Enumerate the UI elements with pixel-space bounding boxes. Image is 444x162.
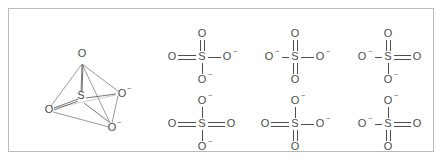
r4-bottom-charge: − bbox=[208, 137, 212, 144]
sulfur-bonds bbox=[54, 65, 116, 122]
atom-label-sulfur: S bbox=[77, 89, 84, 101]
figure-border: O O O − O − S O O S O − O − bbox=[8, 8, 434, 152]
r1-center-label: S bbox=[198, 49, 205, 61]
r5-left-label: O bbox=[261, 116, 270, 128]
r1-top-label: O bbox=[197, 26, 206, 38]
r2-right-charge: − bbox=[326, 47, 330, 54]
r2-left-label: O bbox=[265, 49, 274, 61]
atom-charge-o-bottom: − bbox=[117, 119, 121, 126]
r4-right-label: O bbox=[226, 116, 235, 128]
r5-bottom-label: O bbox=[291, 139, 300, 151]
r3-bottom-label: O bbox=[384, 72, 393, 84]
atom-label-o-top: O bbox=[78, 47, 87, 59]
r6-top-label: O bbox=[384, 93, 393, 105]
r2-left-charge: − bbox=[275, 47, 279, 54]
r3-center-label: S bbox=[385, 49, 392, 61]
atom-charge-o-right: − bbox=[127, 85, 131, 92]
r3-bottom-charge: − bbox=[394, 70, 398, 77]
atom-label-o-left: O bbox=[45, 103, 54, 115]
r1-right-charge: − bbox=[233, 47, 237, 54]
r3-left-label: O bbox=[358, 49, 367, 61]
r3-right-label: O bbox=[413, 49, 422, 61]
r6-left-charge: − bbox=[368, 114, 372, 121]
r5-top-charge: − bbox=[301, 93, 305, 99]
r2-top-label: O bbox=[291, 26, 300, 38]
r4-center-label: S bbox=[198, 116, 205, 128]
r6-right-label: O bbox=[413, 116, 422, 128]
atom-label-o-bottom: O bbox=[108, 121, 117, 133]
r6-top-charge: − bbox=[394, 93, 398, 99]
r4-top-charge: − bbox=[208, 93, 212, 99]
r4-left-label: O bbox=[167, 116, 176, 128]
figure-root: O O O − O − S O O S O − O − bbox=[0, 0, 444, 162]
r1-bottom-charge: − bbox=[208, 70, 212, 77]
lewis-structure-3: O O − S O O − bbox=[342, 23, 435, 90]
r5-top-label: O bbox=[291, 93, 300, 105]
r5-right-label: O bbox=[316, 116, 325, 128]
lewis-structure-4: O − O S O O − bbox=[155, 90, 248, 157]
r6-bonds bbox=[375, 107, 411, 141]
r1-right-label: O bbox=[222, 49, 231, 61]
sulfate-tetrahedral-model: O O O − O − S bbox=[23, 35, 145, 147]
lewis-structure-2: O O − S O − O bbox=[248, 23, 341, 90]
r6-center-label: S bbox=[385, 116, 392, 128]
r3-bonds bbox=[375, 40, 411, 74]
r3-left-charge: − bbox=[368, 47, 372, 54]
r3-top-label: O bbox=[384, 26, 393, 38]
r5-right-charge: − bbox=[326, 114, 330, 121]
lewis-structure-grid: O O S O − O − bbox=[155, 23, 435, 157]
r2-bottom-label: O bbox=[291, 72, 300, 84]
lewis-structure-6: O − O − S O O bbox=[342, 90, 435, 157]
atom-label-o-right: O bbox=[118, 87, 127, 99]
r1-left-label: O bbox=[167, 49, 176, 61]
r6-bottom-label: O bbox=[384, 139, 393, 151]
r4-bottom-label: O bbox=[197, 139, 206, 151]
r2-right-label: O bbox=[316, 49, 325, 61]
r4-top-label: O bbox=[197, 93, 206, 105]
lewis-structure-1: O O S O − O − bbox=[155, 23, 248, 90]
r6-left-label: O bbox=[358, 116, 367, 128]
r2-center-label: S bbox=[291, 49, 298, 61]
r5-center-label: S bbox=[291, 116, 298, 128]
r1-bottom-label: O bbox=[197, 72, 206, 84]
lewis-structure-5: O − O S O − O bbox=[248, 90, 341, 157]
